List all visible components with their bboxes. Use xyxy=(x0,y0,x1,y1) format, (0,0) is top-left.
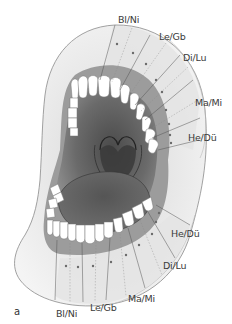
upper-label-he-du: He/Dü xyxy=(188,133,217,143)
lower-label-ma-mi: Ma/Mi xyxy=(128,294,155,304)
panel-label: a xyxy=(14,307,20,317)
mouth-diagram: Bl/Ni Le/Gb Di/Lu Ma/Mi He/Dü He/Dü Di/L… xyxy=(0,0,232,324)
lower-label-le-gb: Le/Gb xyxy=(90,303,117,313)
upper-label-bl-ni: Bl/Ni xyxy=(118,15,139,25)
mouth-illustration xyxy=(0,0,232,324)
upper-label-le-gb: Le/Gb xyxy=(159,32,186,42)
upper-label-ma-mi: Ma/Mi xyxy=(195,98,222,108)
lower-label-di-lu: Di/Lu xyxy=(163,261,186,271)
upper-label-di-lu: Di/Lu xyxy=(183,53,206,63)
lower-label-bl-ni: Bl/Ni xyxy=(56,309,77,319)
lower-label-he-du: He/Dü xyxy=(171,229,200,239)
